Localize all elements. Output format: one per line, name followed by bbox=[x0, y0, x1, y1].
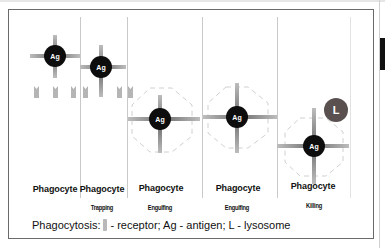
lysosome: L bbox=[324, 98, 348, 122]
svg-text:Ag: Ag bbox=[50, 53, 59, 61]
receptor-icon bbox=[103, 219, 107, 231]
svg-text:Ag: Ag bbox=[96, 64, 105, 72]
stage-label-engulfing-2: Engulfing bbox=[225, 204, 249, 211]
svg-text:L: L bbox=[333, 104, 340, 116]
legend-caption: Phagocytosis: - receptor; Ag - antigen; … bbox=[32, 219, 290, 231]
legend-title: Phagocytosis: bbox=[32, 219, 100, 231]
cell-label-1: Phagocyte bbox=[33, 184, 78, 194]
cell-label-3: Phagocyte bbox=[139, 183, 184, 193]
antigen-panel-4: Ag bbox=[203, 83, 277, 153]
antigen-panel-1: Ag bbox=[30, 35, 80, 78]
stage-label-killing: Killing bbox=[306, 202, 322, 209]
stage-label-trapping: Trapping bbox=[91, 204, 113, 211]
svg-text:Ag: Ag bbox=[155, 116, 164, 124]
receptors-panel-1 bbox=[34, 86, 76, 98]
receptors-panel-2 bbox=[83, 86, 133, 98]
svg-text:Ag: Ag bbox=[232, 114, 241, 122]
cell-label-2: Phagocyte bbox=[80, 184, 125, 194]
stage-label-engulfing-1: Engulfing bbox=[148, 204, 172, 211]
antigen-panel-3: Ag bbox=[128, 95, 200, 153]
phagocytosis-illustration: Ag Ag Ag Ag bbox=[0, 0, 385, 248]
cell-label-5: Phagocyte bbox=[291, 181, 336, 191]
svg-text:Ag: Ag bbox=[309, 143, 318, 151]
legend-text: - receptor; Ag - antigen; L - lysosome bbox=[110, 219, 290, 231]
cell-label-4: Phagocyte bbox=[216, 183, 261, 193]
